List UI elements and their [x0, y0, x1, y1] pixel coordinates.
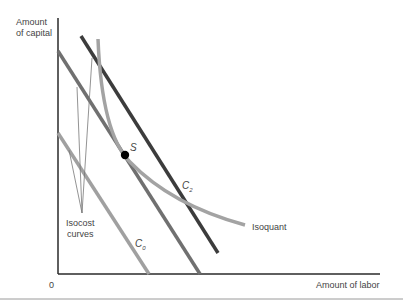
isoquant-label: Isoquant	[252, 222, 287, 233]
origin-label: 0	[49, 280, 54, 291]
y-axis-label-line1: Amount	[16, 17, 52, 28]
point-s-label: S	[130, 142, 137, 153]
y-axis-label: Amount of capital	[16, 17, 52, 39]
c2-label-sub: 2	[189, 187, 192, 193]
isocost-label-line1: Isocost	[66, 218, 95, 229]
x-axis-label: Amount of labor	[316, 280, 380, 291]
isocost-label-line2: curves	[66, 229, 95, 240]
isocost-curves-label: Isocost curves	[66, 218, 95, 240]
c2-label: C2	[182, 180, 193, 196]
y-axis-label-line2: of capital	[16, 28, 52, 39]
pointer-line-c2	[82, 58, 92, 213]
c0-label-sub: 0	[142, 245, 145, 251]
tangency-point-s	[121, 151, 129, 159]
isocost-isoquant-diagram	[0, 0, 403, 307]
isoquant-curve	[98, 39, 245, 225]
c0-label: C0	[135, 238, 146, 254]
